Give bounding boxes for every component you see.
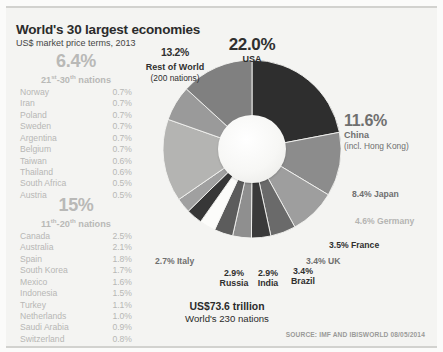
- country-name: Switzerland: [20, 334, 64, 345]
- list-item: Switzerland0.8%: [14, 334, 138, 345]
- country-name: Australia: [20, 242, 53, 253]
- country-value: 0.7%: [112, 144, 132, 155]
- rank-suffix: nations: [76, 75, 111, 85]
- list-item: Spain1.8%: [14, 254, 138, 265]
- country-name: Poland: [20, 110, 47, 121]
- country-name: Belgium: [20, 144, 51, 155]
- callout-brazil-name: Brazil: [283, 276, 323, 286]
- callout-russia-name: Russia: [214, 278, 254, 288]
- callout-russia-percent: 2.9%: [214, 268, 254, 278]
- country-name: Norway: [20, 87, 49, 98]
- country-value: 0.5%: [112, 178, 132, 189]
- country-name: Argentina: [20, 133, 57, 144]
- country-value: 1.6%: [112, 277, 132, 288]
- rank-mid: -30: [57, 75, 70, 85]
- group-21-30-percent: 6.4%: [14, 52, 138, 71]
- callout-rest-of-world-name: Rest of World: [135, 62, 215, 73]
- callout-brazil-percent: 3.4%: [283, 266, 323, 276]
- country-name: Netherlands: [20, 311, 66, 322]
- list-item: Poland0.7%: [14, 110, 138, 121]
- list-item: Argentina0.7%: [14, 133, 138, 144]
- list-item: Saudi Arabia0.9%: [14, 322, 138, 333]
- page-title: World's 30 largest economies: [16, 22, 200, 37]
- country-name: Saudi Arabia: [20, 322, 69, 333]
- list-item: Indonesia1.5%: [14, 288, 138, 299]
- total-amount: US$73.6 trillion: [152, 300, 302, 313]
- callout-russia: 2.9% Russia: [214, 268, 254, 288]
- list-item: South Korea1.7%: [14, 265, 138, 276]
- country-name: Taiwan: [20, 156, 47, 167]
- callout-india-percent: 2.9%: [249, 268, 287, 278]
- list-item: Belgium0.7%: [14, 144, 138, 155]
- group-11-20-rank: 11th-20th nations: [14, 215, 138, 230]
- country-value: 0.7%: [112, 133, 132, 144]
- callout-japan: 8.4% Japan: [352, 189, 399, 200]
- country-name: Indonesia: [20, 288, 57, 299]
- country-value: 0.6%: [112, 167, 132, 178]
- callout-china-sub: (incl. Hong Kong): [344, 141, 442, 151]
- page-subtitle: US$ market price terms, 2013: [16, 38, 136, 48]
- source-note: SOURCE: IMF AND IBISWORLD 08/05/2014: [286, 331, 425, 338]
- callout-germany: 4.6% Germany: [355, 216, 414, 227]
- total-caption: World's 230 nations: [152, 313, 302, 325]
- country-name: South Korea: [20, 265, 68, 276]
- country-value: 2.5%: [112, 231, 132, 242]
- country-value: 0.7%: [112, 121, 132, 132]
- page-edge-right: [436, 0, 443, 352]
- callout-rest-of-world-sub: (200 nations): [135, 73, 215, 83]
- country-value: 0.7%: [112, 87, 132, 98]
- callout-china: 11.6% China (incl. Hong Kong): [344, 112, 442, 151]
- list-item: Mexico1.6%: [14, 277, 138, 288]
- list-item: Turkey1.1%: [14, 300, 138, 311]
- group-21-30: 6.4% 21st-30th nations Norway0.7% Iran0.…: [14, 52, 138, 201]
- callout-rest-of-world-percent: 13.2%: [135, 44, 215, 62]
- country-value: 1.1%: [112, 300, 132, 311]
- group-21-30-rows: Norway0.7% Iran0.7% Poland0.7% Sweden0.7…: [14, 87, 138, 201]
- group-11-20: 15% 11th-20th nations Canada2.5% Austral…: [14, 196, 138, 345]
- rank-suffix: nations: [76, 219, 111, 229]
- country-value: 1.7%: [112, 265, 132, 276]
- callout-rest-of-world: 13.2% Rest of World (200 nations): [135, 44, 215, 83]
- donut-chart: [163, 60, 341, 238]
- country-value: 0.8%: [112, 334, 132, 345]
- list-item: Netherlands1.0%: [14, 311, 138, 322]
- rank-prefix: 21: [41, 75, 51, 85]
- callout-india-name: India: [249, 278, 287, 288]
- country-value: 1.5%: [112, 288, 132, 299]
- country-value: 1.0%: [112, 311, 132, 322]
- list-item: Sweden0.7%: [14, 121, 138, 132]
- country-value: 0.9%: [112, 322, 132, 333]
- rank-prefix: 11: [41, 219, 51, 229]
- country-name: Canada: [20, 231, 50, 242]
- country-name: Spain: [20, 254, 42, 265]
- group-11-20-rows: Canada2.5% Australia2.1% Spain1.8% South…: [14, 231, 138, 345]
- callout-usa-name: USA: [212, 54, 292, 65]
- list-item: Iran0.7%: [14, 98, 138, 109]
- rank-mid: -20: [57, 219, 70, 229]
- country-name: Mexico: [20, 277, 47, 288]
- callout-usa-percent: 22.0%: [212, 36, 292, 54]
- list-item: Taiwan0.6%: [14, 156, 138, 167]
- country-name: Iran: [20, 98, 35, 109]
- callout-brazil: 3.4% Brazil: [283, 266, 323, 286]
- list-item: South Africa0.5%: [14, 178, 138, 189]
- callout-usa: 22.0% USA: [212, 36, 292, 65]
- country-value: 0.7%: [112, 110, 132, 121]
- country-name: South Africa: [20, 178, 66, 189]
- list-item: Australia2.1%: [14, 242, 138, 253]
- callout-china-percent: 11.6%: [344, 112, 442, 130]
- group-21-30-rank: 21st-30th nations: [14, 71, 138, 86]
- country-name: Sweden: [20, 121, 51, 132]
- country-value: 0.6%: [112, 156, 132, 167]
- list-item: Thailand0.6%: [14, 167, 138, 178]
- list-item: Canada2.5%: [14, 231, 138, 242]
- list-item: Norway0.7%: [14, 87, 138, 98]
- country-name: Thailand: [20, 167, 53, 178]
- callout-india: 2.9% India: [249, 268, 287, 288]
- country-value: 2.1%: [112, 242, 132, 253]
- infographic-page: World's 30 largest economies US$ market …: [0, 0, 443, 352]
- group-11-20-percent: 15%: [14, 196, 138, 215]
- country-name: Turkey: [20, 300, 46, 311]
- country-value: 0.7%: [112, 98, 132, 109]
- callout-china-name: China: [344, 130, 442, 141]
